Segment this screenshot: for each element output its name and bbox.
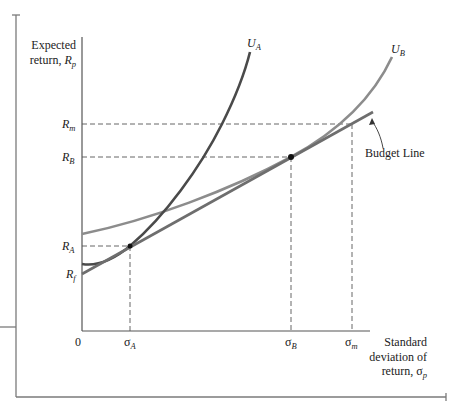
- budget-line: [82, 112, 373, 274]
- budget-line-label: Budget Line: [365, 146, 425, 160]
- outer-frame: [0, 15, 446, 401]
- ub-label: UB: [391, 42, 405, 58]
- axes: [82, 37, 370, 331]
- y-tick-rf: Rf: [65, 267, 77, 283]
- x-tick-sigma-m: σm: [345, 335, 358, 351]
- origin-label: 0: [75, 335, 81, 349]
- x-tick-sigma-a: σA: [124, 335, 136, 351]
- portfolio-choice-diagram: Expected return, Rp Rm RB RA Rf 0 σA σB …: [0, 0, 453, 405]
- x-axis-label-line2: deviation of: [369, 350, 427, 364]
- y-tick-rm: Rm: [61, 117, 75, 133]
- x-axis-label-line1: Standard: [384, 335, 427, 349]
- point-b: [288, 154, 294, 160]
- ua-curve: [82, 52, 250, 265]
- ua-label: UA: [247, 36, 262, 52]
- y-tick-ra: RA: [61, 239, 75, 255]
- y-axis-label-line1: Expected: [31, 38, 76, 52]
- x-tick-sigma-b: σB: [285, 335, 297, 351]
- point-a: [128, 244, 133, 249]
- budget-line-arrow: [369, 118, 383, 148]
- x-axis-label-line3: return, σp: [382, 364, 427, 380]
- y-tick-rb: RB: [61, 150, 75, 166]
- guide-lines: [82, 124, 352, 331]
- ub-curve: [82, 57, 392, 234]
- y-axis-label-line2: return, Rp: [30, 53, 76, 69]
